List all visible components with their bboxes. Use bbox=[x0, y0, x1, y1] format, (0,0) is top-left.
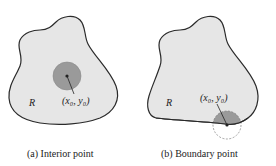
point-label-a: (x₀, y₀) bbox=[62, 95, 90, 107]
caption-a: (a) Interior point bbox=[27, 148, 94, 160]
point-label-b: (x₀, y₀) bbox=[200, 92, 228, 104]
region-r-b bbox=[148, 16, 258, 124]
panel-interior-point: (x₀, y₀) R bbox=[9, 16, 118, 124]
region-label-a: R bbox=[28, 97, 35, 108]
caption-b: (b) Boundary point bbox=[161, 148, 238, 160]
panel-boundary-point: (x₀, y₀) R bbox=[148, 16, 258, 139]
region-label-b: R bbox=[165, 97, 172, 108]
diagram-canvas: (x₀, y₀) R (x₀, y₀) R (a) Interior point… bbox=[0, 0, 276, 166]
